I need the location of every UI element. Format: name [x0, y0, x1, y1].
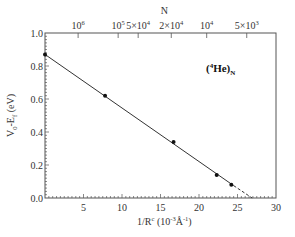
top-tick-label: 5×104 [126, 19, 151, 31]
top-tick-label: 106 [71, 19, 85, 31]
y-tick-label: 0.8 [31, 61, 44, 72]
x-tick-label: 25 [233, 202, 243, 213]
y-tick-label: 1.0 [31, 28, 44, 39]
data-point [103, 94, 107, 98]
y-tick-label: 0.4 [31, 127, 44, 138]
x-tick-label: 5 [81, 202, 86, 213]
fit-line [45, 54, 234, 185]
chart: 510152025300.00.20.40.60.81.01061055×104… [0, 0, 295, 237]
x-axis-title: 1/Rc (10-3Å-1) [137, 215, 192, 228]
x-tick-label: 30 [271, 202, 281, 213]
x-tick-label: 10 [117, 202, 127, 213]
top-tick-label: 104 [200, 19, 214, 31]
data-point [172, 140, 176, 144]
annotation-label: (4He)N [206, 62, 235, 77]
data-point [229, 183, 233, 187]
y-tick-label: 0.2 [31, 160, 44, 171]
x-tick-label: 15 [156, 202, 166, 213]
x-tick-label: 20 [194, 202, 204, 213]
y-tick-label: 0.0 [31, 193, 44, 204]
top-tick-label: 5×103 [235, 19, 259, 31]
data-point [43, 52, 47, 56]
y-axis-title: V0-Ef (eV) [5, 94, 18, 137]
data-point [215, 173, 219, 177]
top-axis-title: N [161, 5, 168, 16]
plot-frame [45, 33, 276, 198]
y-tick-label: 0.6 [31, 94, 44, 105]
top-tick-label: 2×104 [159, 19, 184, 31]
top-tick-label: 105 [112, 19, 125, 31]
